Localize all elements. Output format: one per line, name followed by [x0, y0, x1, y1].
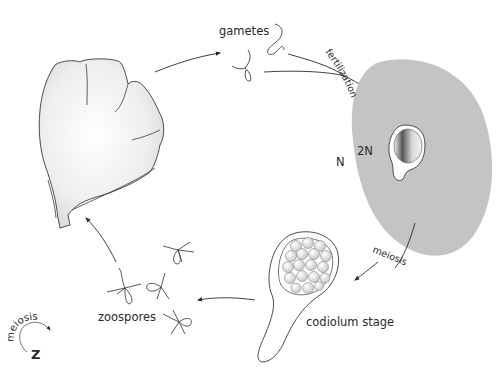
legend-z-label: Z	[31, 348, 40, 361]
legend-meiosis-label: meiosis	[4, 311, 37, 342]
arrow-gamete-1	[264, 71, 345, 76]
life-cycle-diagram: fertilization meiosis meiosis gametes 2N…	[0, 0, 503, 378]
thallus-illustration	[39, 59, 164, 228]
codiolum-label: codiolum stage	[306, 317, 394, 329]
haploid-label: N	[336, 157, 345, 169]
arrow-to-gametes	[155, 53, 220, 72]
diagram-canvas: fertilization meiosis meiosis	[0, 0, 503, 378]
arrow-to-thallus	[86, 218, 116, 262]
gametes-label: gametes	[219, 26, 269, 38]
diploid-label: 2N	[357, 146, 373, 158]
zoospores-label: zoospores	[98, 312, 156, 324]
arrow-to-codiolum	[355, 262, 378, 280]
codiolum-illustration	[258, 232, 339, 362]
meiosis-label: meiosis	[371, 244, 409, 268]
arrow-to-zoospores	[198, 298, 255, 300]
